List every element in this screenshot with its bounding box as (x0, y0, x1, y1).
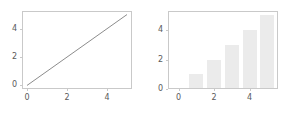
bar (189, 74, 203, 89)
bar (243, 30, 257, 89)
x-tick-label: 2 (212, 94, 217, 102)
x-tick-label: 2 (64, 94, 69, 102)
y-tick-mark (20, 57, 22, 58)
figure-canvas: 024024 024024 (0, 0, 294, 114)
bar (207, 60, 221, 89)
x-tick-mark (107, 89, 108, 91)
x-tick-label: 0 (24, 94, 29, 102)
x-tick-mark (27, 89, 28, 91)
y-tick-mark (166, 60, 168, 61)
x-tick-mark (179, 89, 180, 91)
y-tick-label: 2 (158, 56, 163, 64)
x-tick-mark (214, 89, 215, 91)
y-tick-label: 0 (12, 81, 17, 89)
left-line-plot-axes (22, 11, 132, 89)
y-tick-mark (166, 30, 168, 31)
x-tick-label: 4 (247, 94, 252, 102)
line-series-y-equals-x (27, 15, 127, 86)
left-plot-line-layer (22, 11, 132, 89)
x-tick-label: 0 (176, 94, 181, 102)
y-tick-label: 0 (158, 85, 163, 93)
y-tick-mark (20, 85, 22, 86)
x-tick-mark (67, 89, 68, 91)
y-tick-label: 4 (12, 25, 17, 33)
x-tick-mark (250, 89, 251, 91)
bar (225, 45, 239, 89)
y-tick-mark (166, 89, 168, 90)
x-tick-label: 4 (104, 94, 109, 102)
right-bar-plot-axes (168, 11, 278, 89)
y-tick-label: 4 (158, 26, 163, 34)
bar (260, 15, 274, 89)
right-plot-bar-layer (168, 11, 278, 89)
y-tick-label: 2 (12, 53, 17, 61)
y-tick-mark (20, 29, 22, 30)
